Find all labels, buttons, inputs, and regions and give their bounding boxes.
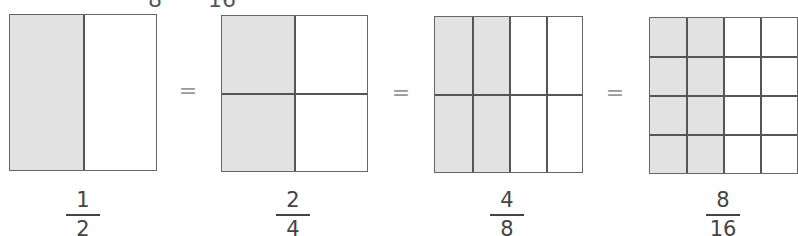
fraction-label-4-8: 4 8 <box>477 190 537 236</box>
numerator: 4 <box>477 190 537 212</box>
fraction-model-2-4 <box>221 15 368 172</box>
partial-text-8: 8 <box>148 0 162 12</box>
divider-line <box>650 95 797 97</box>
fraction-label-8-16: 8 16 <box>693 190 753 236</box>
fraction-model-4-8 <box>434 16 583 173</box>
divider-line <box>435 94 582 96</box>
fraction-model-1-2 <box>9 14 157 171</box>
numerator: 8 <box>693 190 753 212</box>
fraction-label-2-4: 2 4 <box>263 190 323 236</box>
fraction-bar <box>706 214 740 216</box>
denominator: 2 <box>53 219 113 236</box>
fraction-label-1-2: 1 2 <box>53 190 113 236</box>
numerator: 2 <box>263 190 323 212</box>
divider-line <box>650 56 797 58</box>
partial-text-16: 16 <box>208 0 236 12</box>
fraction-bar <box>276 214 310 216</box>
equals-sign: = <box>173 78 203 103</box>
shaded-region <box>10 15 83 170</box>
divider-line <box>222 93 367 95</box>
fraction-bar <box>66 214 100 216</box>
equals-sign: = <box>386 80 416 105</box>
fraction-bar <box>490 214 524 216</box>
denominator: 4 <box>263 219 323 236</box>
equals-sign: = <box>600 80 630 105</box>
denominator: 8 <box>477 219 537 236</box>
fraction-model-8-16 <box>649 17 798 174</box>
divider-line <box>83 15 85 170</box>
denominator: 16 <box>693 219 753 236</box>
numerator: 1 <box>53 190 113 212</box>
divider-line <box>650 134 797 136</box>
